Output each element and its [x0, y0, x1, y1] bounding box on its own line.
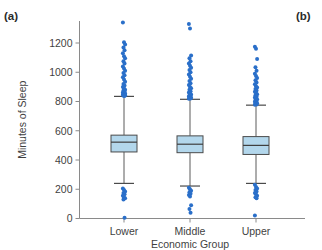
- outlier-point: [255, 196, 259, 200]
- panel-label-b: (b): [296, 10, 311, 22]
- outlier-point: [187, 207, 191, 211]
- outlier-point: [253, 103, 257, 107]
- y-axis-title: Minutes of Sleep: [16, 80, 28, 158]
- boxplot-chart: 020040060080010001200 LowerMiddleUpper E…: [0, 0, 322, 250]
- outlier-point: [121, 21, 125, 25]
- outlier-point: [121, 197, 125, 201]
- box-group-middle: [177, 22, 203, 215]
- x-tick-label-lower: Lower: [110, 225, 139, 237]
- outlier-point: [188, 26, 192, 30]
- x-tick-label-middle: Middle: [175, 225, 206, 237]
- y-tick-label-1000: 1000: [49, 66, 73, 78]
- outlier-point: [189, 203, 193, 207]
- y-tick-label-400: 400: [55, 154, 73, 166]
- panel-label-a: (a): [4, 10, 18, 22]
- box-group-lower: [111, 21, 137, 220]
- x-tick-label-upper: Upper: [242, 225, 271, 237]
- outlier-point: [123, 216, 127, 220]
- y-tick-label-600: 600: [55, 125, 73, 137]
- box-lower: [111, 135, 137, 152]
- outlier-point: [187, 22, 191, 26]
- x-axis-title: Economic Group: [151, 238, 229, 250]
- outlier-point: [254, 47, 258, 51]
- outlier-point: [188, 195, 192, 199]
- outlier-point: [187, 97, 191, 101]
- y-tick-label-0: 0: [67, 212, 73, 224]
- y-tick-label-1200: 1200: [49, 37, 73, 49]
- figure-panel-a: (a) (b) 020040060080010001200 LowerMiddl…: [0, 0, 322, 250]
- outlier-point: [189, 211, 193, 215]
- outlier-point: [253, 65, 257, 69]
- box-series: [111, 21, 269, 220]
- outlier-point: [255, 57, 259, 61]
- y-tick-label-800: 800: [55, 95, 73, 107]
- outlier-point: [123, 94, 127, 98]
- x-axis: LowerMiddleUpper: [80, 219, 306, 237]
- outlier-point: [253, 214, 257, 218]
- y-tick-label-200: 200: [55, 183, 73, 195]
- box-group-upper: [243, 45, 269, 218]
- y-axis: 020040060080010001200: [49, 21, 79, 224]
